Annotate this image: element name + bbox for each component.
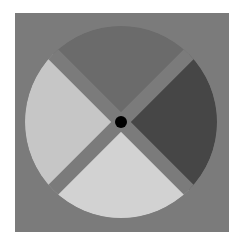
- center-dot: [115, 116, 127, 128]
- quadrant-wheel: [0, 0, 244, 241]
